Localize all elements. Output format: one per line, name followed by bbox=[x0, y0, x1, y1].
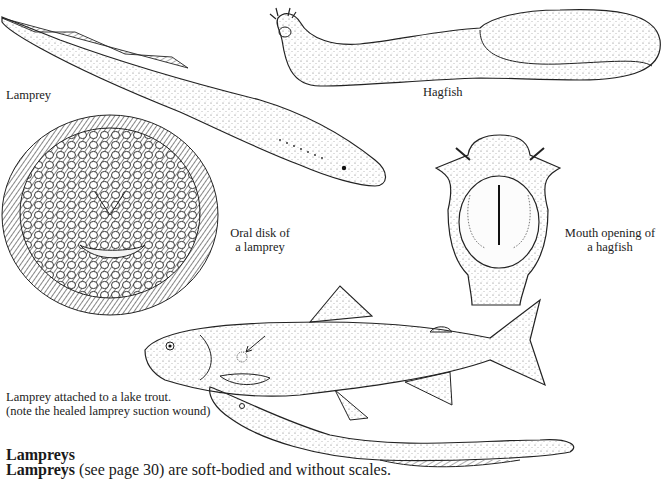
section-body: Lampreys (see page 30) are soft-bodied a… bbox=[6, 461, 391, 479]
hagfish-mouth-caption-line1: Mouth opening of bbox=[558, 226, 662, 240]
hagfish-mouth-caption: Mouth opening of a hagfish bbox=[558, 226, 662, 254]
lake-trout-caption: Lamprey attached to a lake trout. (note … bbox=[6, 390, 210, 418]
lake-trout-illustration bbox=[145, 286, 574, 467]
oral-disk-illustration bbox=[2, 115, 218, 315]
body-text-rest: (see page 30) are soft-bodied and withou… bbox=[75, 461, 391, 478]
oral-disk-caption-line2: a lamprey bbox=[228, 240, 292, 254]
body-bold-term: Lampreys bbox=[6, 461, 75, 478]
hagfish-caption: Hagfish bbox=[423, 85, 463, 99]
hagfish-mouth-caption-line2: a hagfish bbox=[558, 240, 662, 254]
oral-disk-caption: Oral disk of a lamprey bbox=[228, 226, 292, 254]
lake-trout-caption-line2: (note the healed lamprey suction wound) bbox=[6, 404, 210, 418]
lake-trout-caption-line1: Lamprey attached to a lake trout. bbox=[6, 390, 210, 404]
hagfish-illustration bbox=[270, 8, 660, 86]
lamprey-caption: Lamprey bbox=[6, 88, 51, 102]
oral-disk-caption-line1: Oral disk of bbox=[228, 226, 292, 240]
hagfish-mouth-illustration bbox=[436, 135, 560, 305]
